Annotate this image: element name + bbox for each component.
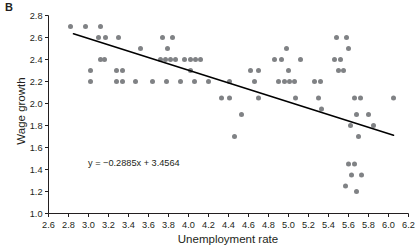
data-point	[88, 79, 93, 84]
data-point	[182, 57, 187, 62]
y-axis-ticks: 1.01.21.41.61.82.02.22.42.62.8	[30, 11, 49, 219]
data-point	[298, 57, 303, 62]
data-point	[96, 35, 101, 40]
data-point	[338, 57, 343, 62]
x-tick-label: 4.2	[202, 220, 215, 230]
data-point	[173, 57, 178, 62]
y-tick-label: 1.2	[30, 187, 43, 197]
data-point	[352, 162, 357, 167]
data-point	[227, 96, 232, 101]
data-point	[192, 79, 197, 84]
data-point	[282, 79, 287, 84]
data-point	[114, 68, 119, 73]
data-point	[287, 79, 292, 84]
x-tick-label: 3.8	[162, 220, 175, 230]
data-point	[284, 46, 289, 51]
data-point	[293, 96, 298, 101]
data-point	[170, 35, 175, 40]
data-point	[116, 35, 121, 40]
x-axis-title: Unemployment rate	[48, 233, 408, 245]
x-tick-label: 4.6	[242, 220, 255, 230]
x-tick-label: 5.2	[302, 220, 315, 230]
data-point	[68, 24, 73, 29]
data-point	[334, 35, 339, 40]
data-point	[114, 79, 119, 84]
x-tick-label: 5.4	[322, 220, 335, 230]
x-axis-group: 2.62.83.03.23.43.63.84.04.24.44.64.85.05…	[42, 214, 415, 230]
x-tick-label: 5.8	[362, 220, 375, 230]
data-point	[354, 189, 359, 194]
x-axis-ticks: 2.62.83.03.23.43.63.84.04.24.44.64.85.05…	[42, 214, 415, 230]
x-tick-label: 4.4	[222, 220, 235, 230]
data-point	[138, 46, 143, 51]
figure-panel-b: B Wage growth Unemployment rate y = −0.2…	[0, 0, 418, 252]
x-tick-label: 2.8	[62, 220, 75, 230]
y-tick-label: 2.8	[30, 11, 43, 21]
data-point	[232, 134, 237, 139]
x-tick-label: 5.6	[342, 220, 355, 230]
data-point	[286, 68, 291, 73]
y-tick-label: 1.8	[30, 121, 43, 131]
x-tick-label: 3.2	[102, 220, 115, 230]
data-point	[346, 46, 351, 51]
data-point	[354, 112, 359, 117]
y-tick-label: 2.6	[30, 33, 43, 43]
data-point	[318, 79, 323, 84]
data-point	[344, 35, 349, 40]
data-point	[343, 184, 348, 189]
data-point	[239, 112, 244, 117]
x-tick-label: 6.2	[402, 220, 415, 230]
data-points-group	[68, 24, 396, 194]
data-point	[371, 123, 376, 128]
x-tick-label: 4.8	[262, 220, 275, 230]
data-point	[188, 57, 193, 62]
data-point	[193, 57, 198, 62]
x-tick-label: 3.6	[142, 220, 155, 230]
y-tick-label: 1.4	[30, 165, 43, 175]
data-point	[164, 79, 169, 84]
trend-line	[74, 34, 394, 136]
data-point	[178, 79, 183, 84]
y-tick-label: 2.4	[30, 55, 43, 65]
y-tick-label: 2.2	[30, 77, 43, 87]
y-tick-label: 1.0	[30, 209, 43, 219]
data-point	[279, 57, 284, 62]
data-point	[292, 79, 297, 84]
data-point	[256, 68, 261, 73]
x-tick-label: 2.6	[42, 220, 55, 230]
data-point	[120, 68, 125, 73]
data-point	[168, 57, 173, 62]
data-point	[256, 96, 261, 101]
data-point	[165, 46, 170, 51]
data-point	[358, 96, 363, 101]
x-tick-label: 3.0	[82, 220, 95, 230]
data-point	[332, 57, 337, 62]
data-point	[98, 24, 103, 29]
data-point	[391, 96, 396, 101]
y-axis-title: Wage growth	[15, 46, 27, 176]
x-tick-label: 5.0	[282, 220, 295, 230]
data-point	[356, 134, 361, 139]
data-point	[341, 68, 346, 73]
y-tick-label: 1.6	[30, 143, 43, 153]
data-point	[336, 68, 341, 73]
data-point	[219, 96, 224, 101]
data-point	[359, 173, 364, 178]
data-point	[163, 57, 168, 62]
data-point	[349, 173, 354, 178]
y-tick-label: 2.0	[30, 99, 43, 109]
data-point	[252, 79, 257, 84]
data-point	[319, 107, 324, 112]
data-point	[316, 96, 321, 101]
data-point	[88, 68, 93, 73]
data-point	[206, 79, 211, 84]
data-point	[160, 35, 165, 40]
data-point	[248, 68, 253, 73]
data-point	[366, 112, 371, 117]
data-point	[198, 57, 203, 62]
data-point	[120, 79, 125, 84]
regression-equation-annotation: y = −0.2885x + 3.4564	[88, 158, 180, 168]
x-tick-label: 6.0	[382, 220, 395, 230]
scatter-plot-canvas: 1.01.21.41.61.82.02.22.42.62.8 2.62.83.0…	[0, 0, 418, 252]
data-point	[348, 123, 353, 128]
